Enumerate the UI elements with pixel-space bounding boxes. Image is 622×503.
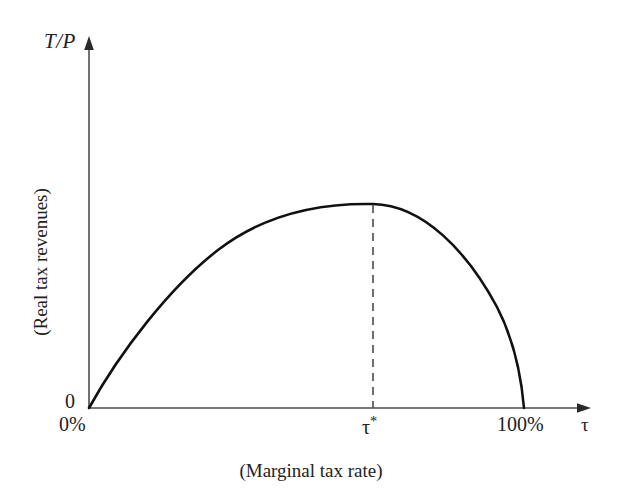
laffer-curve-path <box>89 204 524 408</box>
x-axis-arrowhead-icon <box>577 403 591 413</box>
y-axis-caption-label: (Real tax revenues) <box>31 188 50 336</box>
x-tick-label-tau-star: τ* <box>362 414 377 437</box>
laffer-curve-figure: T/P (Real tax revenues) 0 0% τ* 100% τ (… <box>0 0 622 503</box>
y-axis-symbol-label: T/P <box>44 31 76 52</box>
origin-zero-label: 0 <box>65 391 75 411</box>
y-axis-arrowhead-icon <box>84 36 94 50</box>
x-axis-symbol-label: τ <box>581 415 589 434</box>
x-tick-label-zero-percent: 0% <box>59 414 86 434</box>
x-axis-caption-label: (Marginal tax rate) <box>239 461 382 480</box>
x-tick-label-hundred-percent: 100% <box>497 414 544 434</box>
